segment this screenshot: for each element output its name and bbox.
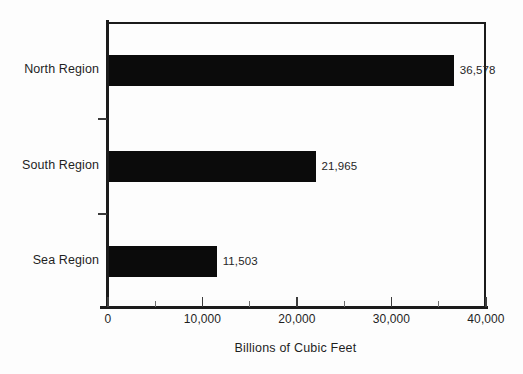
x-axis-tick-label: 0	[105, 312, 112, 326]
bar-north-region	[109, 55, 454, 86]
x-axis-tick-major	[485, 297, 487, 307]
x-axis-tick-minor	[438, 301, 439, 307]
bar-chart-figure: 36,578 21,965 11,503 North Region South …	[0, 0, 523, 374]
value-label-north-region: 36,578	[460, 64, 496, 76]
y-axis-tick-2	[98, 213, 107, 215]
y-axis-tick-1	[98, 118, 107, 120]
value-label-sea-region: 11,503	[223, 255, 258, 267]
x-axis-tick-major	[202, 297, 204, 307]
x-axis-tick-label: 20,000	[278, 312, 315, 326]
x-axis-tick-minor	[155, 301, 156, 307]
bar-south-region	[109, 151, 316, 182]
x-axis-tick-major	[296, 297, 298, 307]
x-axis-title-text: Billions of Cubic Feet	[235, 341, 357, 355]
x-axis-title: Billions of Cubic Feet	[0, 341, 523, 355]
x-axis-tick-major	[391, 297, 393, 307]
x-axis-line	[100, 306, 488, 309]
category-label-north-region: North Region	[24, 62, 99, 76]
category-label-south-region: South Region	[22, 158, 99, 172]
x-axis-tick-label: 30,000	[373, 312, 410, 326]
x-axis-tick-label: 10,000	[184, 312, 221, 326]
category-label-sea-region: Sea Region	[33, 253, 99, 267]
bar-sea-region	[109, 246, 217, 277]
value-label-south-region: 21,965	[322, 160, 358, 172]
x-axis-tick-major	[107, 297, 109, 307]
x-axis-tick-minor	[344, 301, 345, 307]
x-axis-tick-label: 40,000	[467, 312, 504, 326]
x-axis-tick-minor	[249, 301, 250, 307]
